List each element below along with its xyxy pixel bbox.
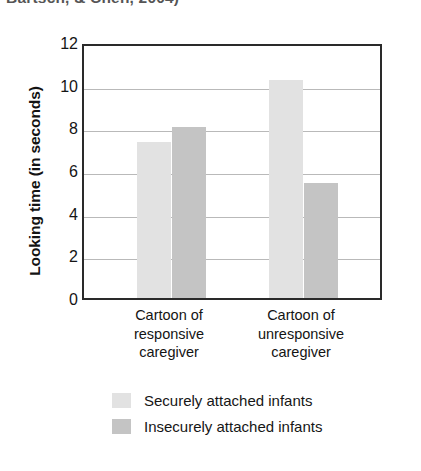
gridline <box>84 131 380 132</box>
bar-chart-figure: Looking time (in seconds) 024681012 Cart… <box>0 0 421 471</box>
y-tick-label: 10 <box>44 79 78 95</box>
x-category-label-line: responsive <box>94 325 244 344</box>
chart-legend: Securely attached infantsInsecurely atta… <box>112 388 412 440</box>
y-tick-label: 2 <box>44 249 78 265</box>
legend-swatch-light <box>112 393 131 408</box>
x-category-label-line: caregiver <box>94 343 244 362</box>
legend-item: Securely attached infants <box>112 388 412 412</box>
y-tick-label: 0 <box>44 292 78 308</box>
gridline <box>84 174 380 175</box>
x-category-label-line: caregiver <box>226 343 376 362</box>
bar <box>269 80 303 298</box>
bar <box>137 142 171 298</box>
x-category-label: Cartoon ofresponsivecaregiver <box>94 306 244 362</box>
y-tick-label: 8 <box>44 121 78 137</box>
x-category-label: Cartoon ofunresponsivecaregiver <box>226 306 376 362</box>
gridline <box>84 89 380 90</box>
legend-item: Insecurely attached infants <box>112 414 412 438</box>
bar <box>172 127 206 298</box>
plot-inner <box>84 46 380 298</box>
legend-label: Securely attached infants <box>144 392 312 409</box>
y-tick-label: 12 <box>44 36 78 52</box>
y-axis-title: Looking time (in seconds) <box>26 46 44 316</box>
legend-swatch-dark <box>112 419 131 434</box>
x-category-label-line: unresponsive <box>226 325 376 344</box>
x-category-label-line: Cartoon of <box>226 306 376 325</box>
y-tick-label: 4 <box>44 207 78 223</box>
legend-label: Insecurely attached infants <box>144 418 322 435</box>
x-category-label-line: Cartoon of <box>94 306 244 325</box>
bar <box>304 183 338 298</box>
plot-area <box>82 44 382 300</box>
y-tick-label: 6 <box>44 164 78 180</box>
